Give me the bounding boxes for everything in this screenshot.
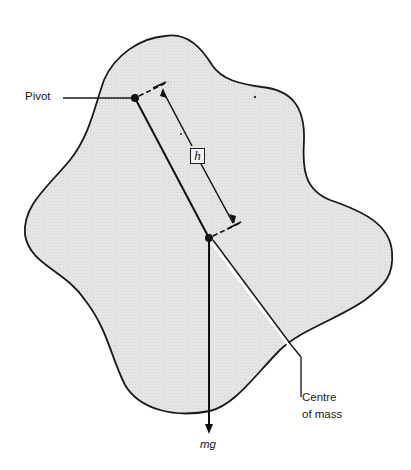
distance-h-label: h [190,148,205,164]
centre-of-mass-label-line1: Centre [302,389,337,405]
centre-of-mass-label-line2: of mass [302,406,342,422]
pivot-label: Pivot [25,88,51,104]
weight-arrowhead-icon [205,424,213,434]
weight-force-label: mg [200,436,216,452]
pivot-point [131,94,139,102]
centre-of-mass-leader-vertical [292,346,301,357]
compound-pendulum-diagram [0,0,411,470]
